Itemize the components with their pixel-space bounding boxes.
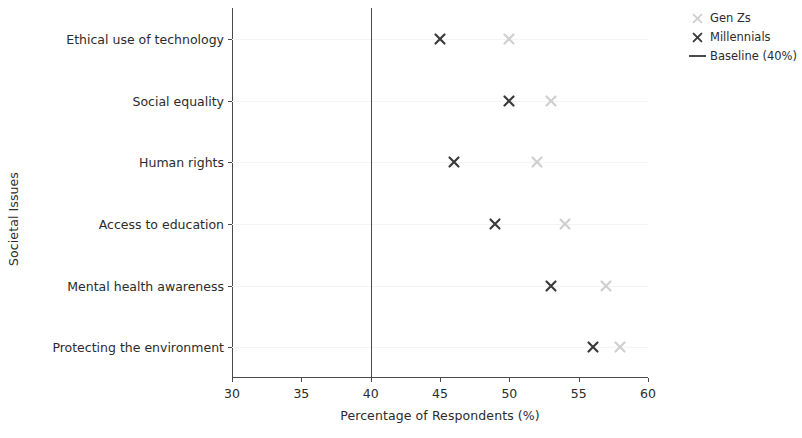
y-tick-mark: [228, 101, 232, 102]
row-guide-line: [232, 162, 648, 163]
baseline-reference-line: [371, 8, 372, 378]
y-tick-mark: [228, 347, 232, 348]
legend-item[interactable]: Baseline (40%): [684, 48, 796, 64]
row-guide-line: [232, 286, 648, 287]
x-tick-mark: [440, 378, 441, 382]
chart-legend: Gen ZsMillennialsBaseline (40%): [684, 10, 796, 64]
x-tick-label: 45: [432, 386, 448, 401]
row-guide-line: [232, 224, 648, 225]
x-tick-mark: [301, 378, 302, 382]
x-tick-mark: [232, 378, 233, 382]
y-axis-spine: [232, 8, 233, 378]
y-tick-mark: [228, 39, 232, 40]
y-tick-mark: [228, 286, 232, 287]
row-guide-line: [232, 347, 648, 348]
y-tick-mark: [228, 162, 232, 163]
x-tick-label: 30: [224, 386, 240, 401]
x-tick-label: 35: [293, 386, 309, 401]
y-tick-label: Mental health awareness: [67, 278, 224, 293]
x-tick-mark: [648, 378, 649, 382]
x-tick-mark: [509, 378, 510, 382]
y-axis-title: Societal Issues: [0, 0, 26, 438]
y-tick-mark: [228, 224, 232, 225]
legend-item[interactable]: Gen Zs: [684, 10, 796, 26]
y-tick-label: Ethical use of technology: [66, 31, 224, 46]
legend-line-swatch: [684, 55, 710, 57]
y-tick-label: Human rights: [139, 155, 224, 170]
y-tick-label: Protecting the environment: [52, 340, 224, 355]
legend-item-label: Baseline (40%): [710, 49, 797, 63]
y-tick-label: Access to education: [99, 216, 224, 231]
x-tick-label: 50: [501, 386, 517, 401]
row-guide-line: [232, 39, 648, 40]
y-tick-label: Social equality: [133, 93, 225, 108]
x-tick-label: 40: [363, 386, 379, 401]
legend-x-marker-icon: [684, 12, 710, 25]
legend-x-marker-icon: [684, 31, 710, 44]
row-guide-line: [232, 101, 648, 102]
legend-item-label: Millennials: [710, 30, 771, 44]
x-tick-label: 60: [640, 386, 656, 401]
plot-area: Ethical use of technologySocial equality…: [232, 8, 648, 378]
x-tick-mark: [371, 378, 372, 382]
legend-item[interactable]: Millennials: [684, 29, 796, 45]
legend-item-label: Gen Zs: [710, 11, 751, 25]
x-tick-label: 55: [571, 386, 587, 401]
x-tick-mark: [579, 378, 580, 382]
scatter-chart-figure: Societal Issues Percentage of Respondent…: [0, 0, 802, 438]
x-axis-title: Percentage of Respondents (%): [232, 408, 648, 423]
